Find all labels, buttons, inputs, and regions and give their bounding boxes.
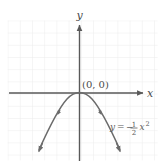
parabola-figure: x y (0, 0) y = − 1 2 x 2 — [0, 0, 164, 168]
equation-exponent: 2 — [146, 120, 150, 128]
equation-numerator: 1 — [132, 121, 136, 129]
grid — [8, 20, 158, 160]
equation-denominator: 2 — [132, 129, 136, 137]
origin-label: (0, 0) — [82, 79, 109, 90]
equation-equals: = — [117, 122, 125, 132]
coordinate-plane-svg: x y (0, 0) y = − 1 2 x 2 — [0, 0, 164, 168]
equation-lhs: y — [109, 122, 116, 132]
x-axis-label: x — [147, 87, 154, 100]
y-axis-label: y — [75, 9, 83, 22]
equation-variable: x — [140, 122, 145, 132]
